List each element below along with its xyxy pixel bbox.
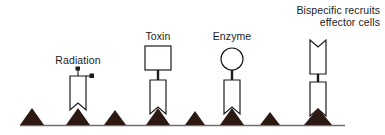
construct-radiation <box>70 67 94 111</box>
construct-bispecific <box>310 40 326 116</box>
radiolabel-dot-2 <box>90 74 95 79</box>
antigen-triangle <box>104 110 126 125</box>
antibody-conjugate-figure: Radiation Toxin Enzyme Bispecific recrui… <box>0 0 385 135</box>
figure-canvas: Radiation Toxin Enzyme Bispecific recrui… <box>0 0 385 135</box>
label-toxin: Toxin <box>145 30 170 42</box>
antibody-body-radiation <box>70 76 86 110</box>
antigen-triangle <box>260 112 280 125</box>
label-bispecific-line2: effector cells <box>320 16 380 28</box>
antigen-triangle <box>304 108 332 125</box>
enzyme-payload-circle <box>221 48 243 70</box>
antigen-triangle <box>20 108 44 125</box>
antigen-triangle <box>185 111 205 125</box>
label-enzyme: Enzyme <box>213 30 252 42</box>
antibody-arm-upper-bispecific <box>310 40 326 74</box>
toxin-payload-square <box>145 46 171 70</box>
label-radiation: Radiation <box>55 54 100 66</box>
construct-enzyme <box>221 48 243 114</box>
antigen-group <box>20 108 332 125</box>
construct-toxin <box>145 46 171 114</box>
radiolabel-dot-1 <box>76 67 81 71</box>
label-bispecific-line1: Bispecific recruits <box>296 4 380 16</box>
